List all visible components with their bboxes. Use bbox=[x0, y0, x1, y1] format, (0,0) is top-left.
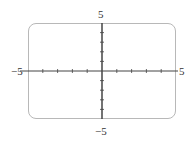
y-min-label: −5 bbox=[95, 126, 107, 137]
x-min-label: −5 bbox=[11, 66, 23, 77]
y-max-label: 5 bbox=[98, 9, 104, 20]
x-max-label: 5 bbox=[179, 66, 185, 77]
axes bbox=[0, 0, 196, 143]
